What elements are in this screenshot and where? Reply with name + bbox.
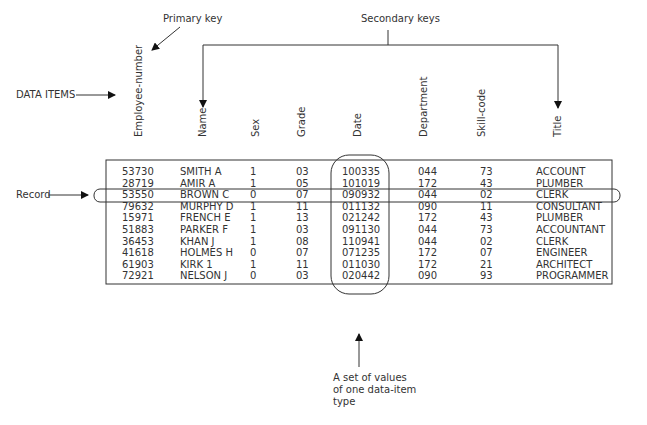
cell-sex: 1	[250, 201, 256, 212]
cell-skill-code: 02	[480, 236, 493, 247]
column-header-sex: Sex	[250, 119, 261, 137]
cell-department: 172	[418, 212, 437, 223]
cell-name: SMITH A	[180, 166, 222, 177]
cell-employee-number: 61903	[122, 259, 154, 270]
cell-skill-code: 43	[480, 212, 493, 223]
cell-name: BROWN C	[180, 189, 229, 200]
cell-name: KIRK 1	[180, 259, 213, 270]
cell-title: PLUMBER	[536, 178, 583, 189]
cell-department: 172	[418, 247, 437, 258]
column-header-date: Date	[352, 113, 363, 137]
cell-grade: 03	[296, 166, 309, 177]
cell-department: 090	[418, 201, 437, 212]
cell-sex: 0	[250, 270, 256, 281]
cell-skill-code: 11	[480, 201, 493, 212]
cell-title: CLERK	[536, 189, 568, 200]
cell-grade: 11	[296, 201, 309, 212]
cell-sex: 1	[250, 212, 256, 223]
cell-sex: 1	[250, 166, 256, 177]
cell-employee-number: 53730	[122, 166, 154, 177]
cell-sex: 1	[250, 224, 256, 235]
cell-name: FRENCH E	[180, 212, 231, 223]
column-header-skill-code: Skill-code	[476, 89, 487, 137]
column-header-title: Title	[552, 116, 563, 137]
cell-department: 044	[418, 224, 437, 235]
cell-sex: 1	[250, 178, 256, 189]
cell-name: MURPHY D	[180, 201, 233, 212]
cell-title: PLUMBER	[536, 212, 583, 223]
cell-date: 021242	[342, 212, 380, 223]
cell-date: 011132	[342, 201, 380, 212]
cell-date: 071235	[342, 247, 380, 258]
cell-date: 110941	[342, 236, 380, 247]
primary-key-label: Primary key	[163, 13, 222, 24]
cell-department: 090	[418, 270, 437, 281]
set-of-values-line1: A set of values	[333, 372, 416, 384]
cell-skill-code: 02	[480, 189, 493, 200]
record-label: Record	[16, 189, 51, 200]
cell-title: ACCOUNT	[536, 166, 585, 177]
cell-name: HOLMES H	[180, 247, 233, 258]
cell-date: 011030	[342, 259, 380, 270]
cell-grade: 03	[296, 270, 309, 281]
data-items-label: DATA ITEMS	[16, 89, 75, 100]
cell-skill-code: 21	[480, 259, 493, 270]
cell-employee-number: 72921	[122, 270, 154, 281]
cell-skill-code: 73	[480, 224, 493, 235]
cell-grade: 08	[296, 236, 309, 247]
cell-sex: 1	[250, 236, 256, 247]
cell-employee-number: 36453	[122, 236, 154, 247]
column-header-name: Name	[197, 107, 208, 137]
cell-sex: 1	[250, 259, 256, 270]
set-of-values-line2: of one data-item	[333, 384, 416, 396]
cell-department: 172	[418, 259, 437, 270]
cell-grade: 13	[296, 212, 309, 223]
cell-skill-code: 93	[480, 270, 493, 281]
cell-grade: 03	[296, 224, 309, 235]
cell-title: ACCOUNTANT	[536, 224, 605, 235]
column-header-employee-number: Employee-number	[133, 45, 144, 137]
set-of-values-line3: type	[333, 396, 416, 408]
cell-grade: 11	[296, 259, 309, 270]
cell-name: NELSON J	[180, 270, 227, 281]
secondary-keys-label: Secondary keys	[361, 13, 440, 24]
cell-date: 090932	[342, 189, 380, 200]
cell-title: ENGINEER	[536, 247, 588, 258]
cell-name: KHAN J	[180, 236, 215, 247]
cell-grade: 05	[296, 178, 309, 189]
cell-grade: 07	[296, 189, 309, 200]
cell-skill-code: 73	[480, 166, 493, 177]
cell-title: CONSULTANT	[536, 201, 602, 212]
cell-employee-number: 41618	[122, 247, 154, 258]
cell-employee-number: 28719	[122, 178, 154, 189]
column-header-grade: Grade	[296, 107, 307, 138]
cell-grade: 07	[296, 247, 309, 258]
cell-department: 044	[418, 189, 437, 200]
cell-date: 091130	[342, 224, 380, 235]
column-header-department: Department	[418, 76, 429, 137]
cell-date: 020442	[342, 270, 380, 281]
cell-department: 172	[418, 178, 437, 189]
cell-skill-code: 07	[480, 247, 493, 258]
cell-name: PARKER F	[180, 224, 228, 235]
cell-sex: 0	[250, 189, 256, 200]
cell-title: PROGRAMMER	[536, 270, 609, 281]
cell-name: AMIR A	[180, 178, 215, 189]
cell-date: 100335	[342, 166, 380, 177]
cell-department: 044	[418, 166, 437, 177]
cell-employee-number: 79632	[122, 201, 154, 212]
set-of-values-label: A set of values of one data-item type	[333, 372, 416, 408]
cell-employee-number: 53550	[122, 189, 154, 200]
cell-employee-number: 15971	[122, 212, 154, 223]
cell-title: CLERK	[536, 236, 568, 247]
cell-date: 101019	[342, 178, 380, 189]
cell-skill-code: 43	[480, 178, 493, 189]
cell-employee-number: 51883	[122, 224, 154, 235]
cell-title: ARCHITECT	[536, 259, 592, 270]
cell-department: 044	[418, 236, 437, 247]
cell-sex: 0	[250, 247, 256, 258]
